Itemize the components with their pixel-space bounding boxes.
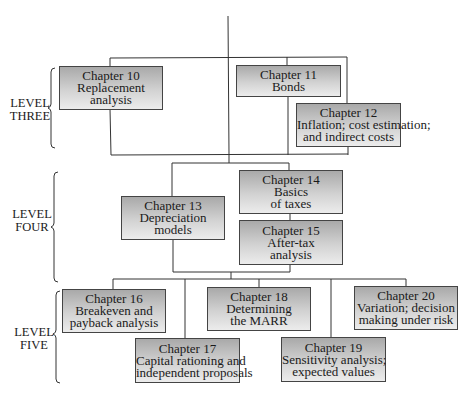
chapter-12-box: Chapter 12 Inflation; cost estimation; a…: [296, 103, 401, 147]
chapter-14-box: Chapter 14 Basics of taxes: [239, 170, 343, 214]
chapter-18-box: Chapter 18 Determining the MARR: [207, 287, 311, 331]
chapter-13-box: Chapter 13 Depreciation models: [121, 196, 225, 240]
chapter-15-box: Chapter 15 After-tax analysis: [239, 220, 343, 265]
level-four-label: LEVEL FOUR: [7, 208, 57, 234]
chapter-16-box: Chapter 16 Breakeven and payback analysi…: [62, 289, 166, 333]
chapter-19-box: Chapter 19 Sensitivity analysis; expecte…: [281, 337, 386, 382]
chapter-20-box: Chapter 20 Variation; decision making un…: [354, 286, 458, 330]
level-three-label: LEVEL THREE: [5, 97, 55, 123]
level3-bottom-line: [111, 154, 348, 155]
level-five-label: LEVEL FIVE: [9, 326, 59, 352]
chapter-11-box: Chapter 11 Bonds: [236, 65, 341, 97]
level3-top-line: [110, 57, 347, 58]
chapter-17-box: Chapter 17 Capital rationing and indepen…: [135, 338, 240, 383]
trunk-line: [228, 16, 229, 155]
chapter-10-box: Chapter 10 Replacement analysis: [59, 66, 163, 110]
